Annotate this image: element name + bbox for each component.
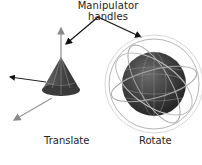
rotate-manipulator (105, 35, 202, 133)
x-axis-handle (10, 77, 46, 82)
figure-title: Manipulator handles (58, 0, 158, 22)
diagram-canvas: Manipulator handles Translate Rotate (0, 0, 202, 165)
z-axis-handle (14, 98, 52, 120)
translate-label: Translate (44, 135, 89, 146)
rotate-label: Rotate (139, 135, 172, 146)
